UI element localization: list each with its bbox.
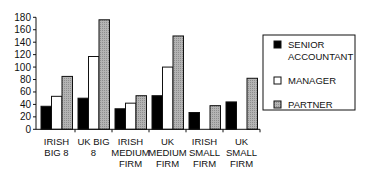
bar-manager — [89, 57, 100, 130]
svg-text:MEDIUM: MEDIUM — [111, 147, 150, 158]
bar-partner — [173, 36, 184, 129]
x-category-label: IRISHMEDIUMFIRM — [111, 136, 150, 169]
y-tick-label: 180 — [14, 12, 31, 23]
bar-chart: 020406080100120140160180 IRISHBIG 8UK BI… — [0, 0, 372, 180]
bar-partner — [247, 78, 258, 129]
legend-swatch — [274, 41, 281, 48]
svg-text:MANAGER: MANAGER — [288, 75, 336, 86]
bar-senior-accountant — [152, 96, 163, 130]
y-tick-label: 60 — [20, 86, 32, 97]
x-category-label: UK BIG8 — [77, 136, 109, 158]
svg-text:FIRM: FIRM — [156, 158, 179, 169]
x-category-label: IRISHBIG 8 — [44, 136, 69, 158]
y-tick-label: 40 — [20, 99, 32, 110]
svg-text:IRISH: IRISH — [192, 136, 217, 147]
y-axis: 020406080100120140160180 — [14, 12, 36, 135]
svg-text:ACCOUNTANT: ACCOUNTANT — [288, 51, 353, 62]
bar-manager — [126, 103, 137, 129]
bar-manager — [163, 67, 174, 129]
svg-text:FIRM: FIRM — [193, 158, 216, 169]
svg-text:UK: UK — [235, 136, 249, 147]
x-category-label: UKSMALLFIRM — [226, 136, 257, 169]
bar-senior-accountant — [41, 106, 52, 129]
bar-manager — [52, 96, 63, 129]
y-tick-label: 160 — [14, 24, 31, 35]
svg-text:SENIOR: SENIOR — [288, 39, 325, 50]
svg-text:IRISH: IRISH — [118, 136, 143, 147]
legend-swatch — [274, 101, 281, 108]
svg-text:UK BIG: UK BIG — [77, 136, 109, 147]
x-axis: IRISHBIG 8UK BIG8IRISHMEDIUMFIRMUKMEDIUM… — [36, 129, 260, 169]
bar-partner — [62, 76, 73, 129]
svg-text:UK: UK — [161, 136, 175, 147]
svg-text:8: 8 — [91, 147, 96, 158]
bar-partner — [136, 96, 147, 130]
bar-senior-accountant — [189, 113, 200, 130]
y-tick-label: 140 — [14, 37, 31, 48]
x-category-label: IRISHSMALLFIRM — [189, 136, 220, 169]
y-tick-label: 0 — [25, 124, 31, 135]
y-tick-label: 80 — [20, 74, 32, 85]
svg-text:IRISH: IRISH — [44, 136, 69, 147]
bar-partner — [99, 20, 110, 130]
y-tick-label: 20 — [20, 111, 32, 122]
bar-senior-accountant — [78, 98, 89, 129]
legend-swatch — [274, 77, 281, 84]
svg-text:PARTNER: PARTNER — [288, 99, 333, 110]
bar-senior-accountant — [226, 102, 237, 129]
bars — [41, 20, 258, 130]
x-category-label: UKMEDIUMFIRM — [148, 136, 187, 169]
svg-text:FIRM: FIRM — [230, 158, 253, 169]
y-tick-label: 100 — [14, 62, 31, 73]
svg-text:SMALL: SMALL — [226, 147, 257, 158]
legend: SENIORACCOUNTANTMANAGERPARTNER — [263, 35, 355, 110]
svg-text:BIG 8: BIG 8 — [44, 147, 68, 158]
y-tick-label: 120 — [14, 49, 31, 60]
svg-text:FIRM: FIRM — [119, 158, 142, 169]
svg-text:MEDIUM: MEDIUM — [148, 147, 187, 158]
bar-partner — [210, 106, 221, 130]
bar-senior-accountant — [115, 109, 126, 130]
svg-text:SMALL: SMALL — [189, 147, 220, 158]
